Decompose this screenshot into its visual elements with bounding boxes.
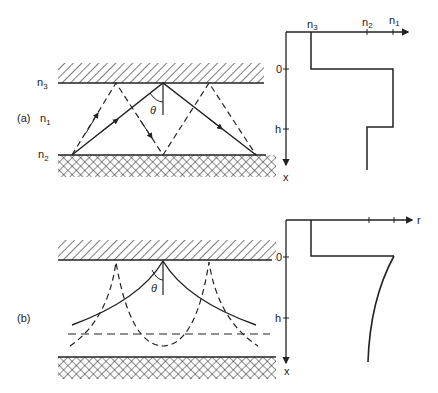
index-profile-a: 0 h x n3 n2 n1 — [275, 14, 408, 183]
label-n1: n1 — [40, 112, 51, 127]
substrate-crosshatch-b — [58, 357, 276, 379]
waveguide-diagram: θ (a) n3 n1 n2 0 h x n3 n2 n1 — [0, 0, 438, 393]
axis-x-b: x — [284, 365, 290, 377]
label-n2: n2 — [38, 148, 49, 163]
panel-b: θ (b) 0 h x r — [17, 214, 421, 379]
axis-n-b: r — [417, 214, 421, 226]
substrate-crosshatch — [58, 155, 276, 177]
label-n3: n3 — [37, 76, 48, 91]
svg-text:n2: n2 — [362, 16, 373, 30]
index-profile-b: 0 h x r — [275, 214, 421, 377]
cladding-top-hatch-b — [58, 240, 276, 260]
axis-zero-b: 0 — [276, 251, 282, 263]
angle-theta-b: θ — [151, 282, 157, 294]
ray-dashed-curved — [70, 262, 258, 346]
axis-zero: 0 — [276, 63, 282, 75]
svg-text:n1: n1 — [389, 14, 400, 28]
panel-a: θ (a) n3 n1 n2 0 h x n3 n2 n1 — [17, 14, 408, 183]
angle-theta: θ — [150, 104, 156, 116]
ray-solid — [72, 83, 256, 155]
cladding-top-hatch — [58, 63, 264, 83]
svg-text:n3: n3 — [307, 18, 318, 32]
panel-label-b: (b) — [17, 312, 30, 324]
panel-label-a: (a) — [17, 112, 30, 124]
ray-dashed — [72, 83, 256, 155]
axis-x: x — [283, 171, 289, 183]
axis-h: h — [275, 123, 281, 135]
axis-h-b: h — [275, 312, 281, 324]
